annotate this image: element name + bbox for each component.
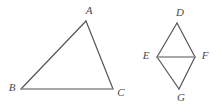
vertex-label-e: E	[142, 49, 150, 61]
edge-de	[157, 23, 177, 57]
kite-degf: D E F G	[142, 6, 209, 103]
edge-ab	[21, 21, 86, 89]
vertex-label-f: F	[201, 49, 209, 61]
edge-eg	[157, 57, 179, 89]
vertex-label-a: A	[85, 4, 93, 16]
geometry-figure-canvas: A B C D E F G	[0, 0, 221, 106]
geometry-figure-svg: A B C D E F G	[0, 0, 221, 106]
vertex-label-g: G	[177, 91, 185, 103]
triangle-abc: A B C	[9, 4, 126, 98]
edge-df	[177, 23, 195, 57]
vertex-label-d: D	[175, 6, 184, 18]
edge-ac	[86, 21, 113, 89]
vertex-label-c: C	[117, 86, 125, 98]
edge-fg	[179, 57, 195, 89]
vertex-label-b: B	[9, 81, 16, 93]
